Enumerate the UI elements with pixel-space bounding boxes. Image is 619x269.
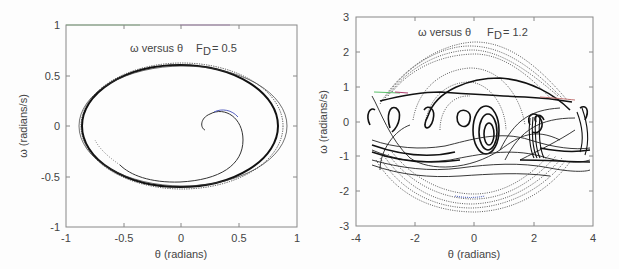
svg-text:2: 2 <box>343 46 349 58</box>
svg-text:3: 3 <box>343 11 349 23</box>
figure: 1 0.5 0 -0.5 -1 -1 -0.5 0 0.5 1 θ (radia… <box>0 0 619 269</box>
svg-text:-0.5: -0.5 <box>115 232 134 244</box>
left-plot-frame <box>66 25 297 227</box>
left-y-tick-labels: 1 0.5 0 -0.5 -1 <box>41 19 60 233</box>
left-chart: 1 0.5 0 -0.5 -1 -1 -0.5 0 0.5 1 θ (radia… <box>17 19 300 260</box>
left-x-tick-labels: -1 -0.5 0 0.5 1 <box>61 232 300 244</box>
svg-text:= 1.2: = 1.2 <box>503 26 528 38</box>
svg-text:0.5: 0.5 <box>231 232 246 244</box>
right-trajectory <box>368 42 590 212</box>
right-x-axis-label: θ (radians) <box>448 248 501 260</box>
svg-text:-1: -1 <box>61 232 71 244</box>
svg-text:F: F <box>196 42 203 54</box>
left-trajectory <box>79 63 287 189</box>
svg-text:-2: -2 <box>339 185 349 197</box>
svg-text:D: D <box>494 29 502 41</box>
svg-text:-2: -2 <box>410 232 420 244</box>
right-chart-title: ω versus θ F D = 1.2 <box>418 26 528 41</box>
svg-text:2: 2 <box>531 232 537 244</box>
svg-text:= 0.5: = 0.5 <box>212 42 237 54</box>
svg-text:F: F <box>487 26 494 38</box>
left-y-axis-label: ω (radians/s) <box>17 94 29 158</box>
svg-text:ω versus θ: ω versus θ <box>418 26 471 38</box>
right-x-tick-labels: -4 -2 0 2 4 <box>351 232 596 244</box>
svg-text:0: 0 <box>178 232 184 244</box>
svg-text:0: 0 <box>54 120 60 132</box>
svg-text:-1: -1 <box>50 221 60 233</box>
right-y-axis-label: ω (radians/s) <box>317 90 329 154</box>
svg-text:1: 1 <box>54 19 60 31</box>
svg-text:D: D <box>203 45 211 57</box>
svg-text:ω versus θ: ω versus θ <box>130 42 183 54</box>
right-chart: 3 2 1 0 -1 -2 -3 -4 -2 0 2 4 θ (radians)… <box>317 11 596 260</box>
svg-text:1: 1 <box>343 81 349 93</box>
svg-text:-4: -4 <box>351 232 361 244</box>
right-y-tick-labels: 3 2 1 0 -1 -2 -3 <box>339 11 349 232</box>
svg-text:0.5: 0.5 <box>45 70 60 82</box>
svg-text:4: 4 <box>590 232 596 244</box>
svg-text:0: 0 <box>343 116 349 128</box>
svg-text:0: 0 <box>471 232 477 244</box>
svg-text:-3: -3 <box>339 220 349 232</box>
left-chart-title: ω versus θ F D = 0.5 <box>130 42 237 57</box>
left-x-axis-label: θ (radians) <box>155 248 208 260</box>
svg-text:-1: -1 <box>339 150 349 162</box>
left-ticks <box>66 25 297 227</box>
svg-text:1: 1 <box>294 232 300 244</box>
svg-text:-0.5: -0.5 <box>41 171 60 183</box>
